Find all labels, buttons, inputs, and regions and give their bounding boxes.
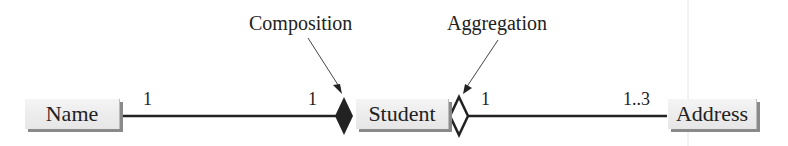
composition-label: Composition [249,12,352,35]
multiplicity-student-aggregation: 1 [481,89,490,110]
aggregation-pointer [466,40,498,88]
arrow-head-icon [333,84,342,94]
hollow-diamond-icon [450,97,468,135]
aggregation-label: Aggregation [447,12,547,35]
multiplicity-student-composition: 1 [308,89,317,110]
class-box-name: Name [25,99,120,129]
class-box-student: Student [356,99,449,129]
class-box-address: Address [668,99,757,129]
arrow-head-icon [463,84,472,94]
composition-pointer [308,38,340,88]
multiplicity-name: 1 [143,89,152,110]
filled-diamond-icon [335,97,353,135]
multiplicity-address: 1..3 [623,89,650,110]
